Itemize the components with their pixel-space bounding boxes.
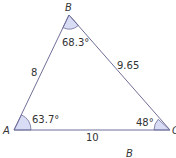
vertex-label-b: B — [65, 2, 72, 13]
angle-label-a: 63.7° — [32, 114, 59, 125]
side-label-ab: 8 — [31, 67, 37, 78]
vertex-label-c: C — [172, 125, 176, 136]
angle-label-b: 68.3° — [62, 37, 89, 48]
vertex-label-a: A — [2, 125, 10, 136]
angle-label-c: 48° — [136, 117, 154, 128]
triangle-diagram: B A C 68.3° 63.7° 48° 8 9.65 10 B — [0, 0, 176, 158]
angle-wedge-a — [14, 115, 31, 130]
side-bc — [69, 15, 170, 130]
side-ab — [14, 15, 69, 130]
side-label-bc: 9.65 — [117, 60, 139, 71]
extra-label-b: B — [126, 148, 133, 158]
side-label-ac: 10 — [86, 132, 99, 143]
